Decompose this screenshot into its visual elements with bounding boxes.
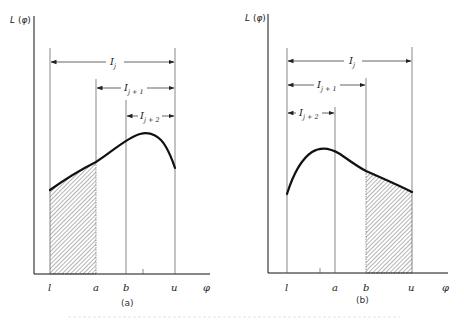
- panel-caption-b: (b): [356, 295, 369, 305]
- x-tick-l: l: [285, 282, 288, 293]
- svg-text:Ij + 1: Ij + 1: [316, 79, 337, 93]
- x-axis-symbol: φ: [203, 282, 210, 293]
- interval-Ij: Ij: [288, 55, 411, 69]
- x-tick-b: b: [363, 282, 369, 293]
- x-tick-a: a: [93, 282, 99, 293]
- x-tick-a: a: [332, 282, 338, 293]
- svg-text:Ij: Ij: [348, 55, 355, 69]
- x-axis-symbol: φ: [442, 282, 449, 293]
- panel-a: L (φ) Ij Ij + 1 Ij + 2 l a b u φ: [10, 15, 210, 308]
- x-tick-l: l: [48, 282, 51, 293]
- x-tick-u: u: [408, 282, 414, 293]
- interval-elimination-diagram: L (φ) Ij Ij + 1 Ij + 2 l a b u φ: [0, 0, 464, 321]
- svg-text:Ij: Ij: [109, 56, 116, 70]
- interval-Ij1: Ij + 1: [97, 82, 174, 96]
- interval-Ij: Ij: [51, 56, 174, 70]
- interval-Ij2: Ij + 2: [288, 107, 334, 121]
- interval-Ij2: Ij + 2: [127, 110, 174, 124]
- x-tick-u: u: [171, 282, 177, 293]
- x-tick-b: b: [123, 282, 129, 293]
- y-axis-label: L (φ): [245, 13, 266, 23]
- panel-b: L (φ) Ij Ij + 1 Ij + 2 l a b u φ: [245, 13, 449, 305]
- svg-text:Ij + 2: Ij + 2: [298, 107, 319, 121]
- svg-text:Ij + 1: Ij + 1: [123, 82, 144, 96]
- panel-caption-a: (a): [121, 298, 134, 308]
- shaded-eliminated-region: [50, 162, 96, 274]
- y-axis-label: L (φ): [10, 15, 31, 25]
- svg-text:Ij + 2: Ij + 2: [139, 110, 160, 124]
- shaded-eliminated-region: [366, 171, 412, 273]
- interval-Ij1: Ij + 1: [288, 79, 365, 93]
